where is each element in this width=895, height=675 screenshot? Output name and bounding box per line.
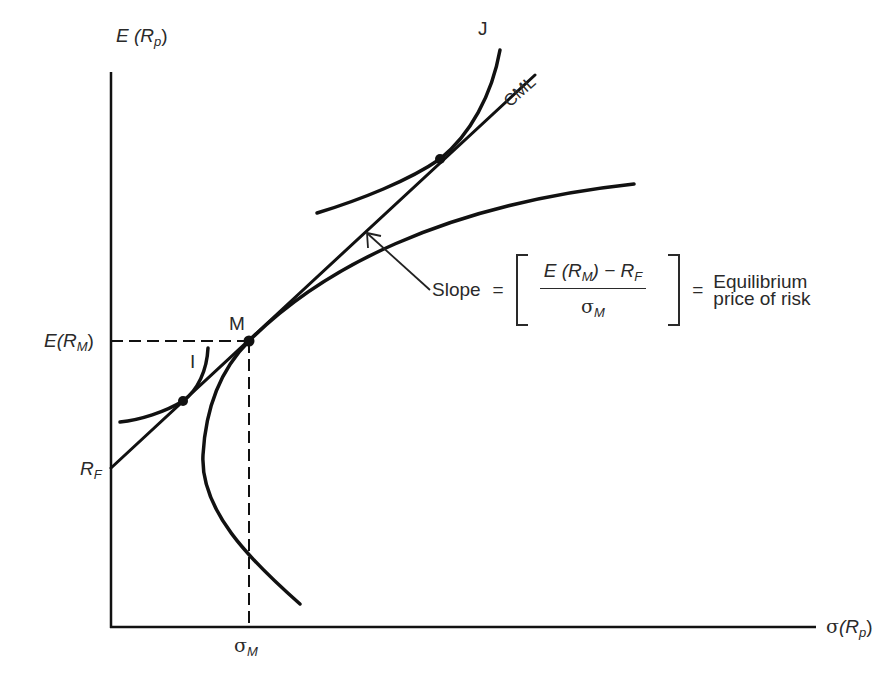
y-axis-label-r: (R [134,25,154,46]
result-line-2: price of risk [713,290,810,307]
slope-fraction: E (RM) − RF σM [540,260,647,320]
slope-formula: Slope = E (RM) − RF σM = Equilibrium pri… [432,254,810,326]
x-axis-label-close: ) [866,616,872,637]
numerator-sub-m: M [582,269,593,284]
numerator-sub-f: F [634,269,642,284]
x-axis-label: σ(Rp) [826,617,873,639]
y-tick-risk-free: RF [80,459,102,481]
y-axis-label: E (Rp) [116,26,168,48]
x-tick-market-risk: σM [234,636,258,658]
y-tick-market-return: E(RM) [44,331,94,353]
efficient-frontier-curve [203,184,634,604]
y-tick-market-sub: M [77,339,88,354]
x-axis-label-r: (R [839,616,859,637]
right-bracket [668,254,680,326]
indifference-curve-i-label: I [190,352,195,371]
denominator-sigma: σ [581,295,594,317]
left-bracket [516,254,528,326]
y-tick-market-main: E(R [44,330,77,351]
result-equals: = [692,279,703,301]
x-tick-sigma: σ [234,634,247,656]
y-tick-riskfree-main: R [80,458,94,479]
x-axis-label-sigma: σ [826,615,839,637]
equilibrium-price-of-risk-label: Equilibrium price of risk [713,273,810,307]
tangent-point-i [178,396,188,406]
numerator-mid: ) − R [593,260,635,281]
slope-equals: = [493,279,504,301]
tangent-point-j [435,154,445,164]
fraction-denominator: σM [581,289,605,320]
indifference-curve-j-label: J [478,19,488,38]
y-axis-label-close: ) [161,25,167,46]
market-portfolio-label: M [229,314,245,333]
x-tick-sub: M [247,644,258,659]
numerator-e: E (R [544,260,582,281]
slope-label: Slope [432,279,481,301]
y-tick-riskfree-sub: F [94,467,102,482]
fraction-numerator: E (RM) − RF [540,260,647,289]
market-portfolio-point [244,336,255,347]
denominator-sub: M [594,305,605,320]
y-axis-label-e: E [116,25,129,46]
cml-diagram-canvas [0,0,895,675]
y-tick-market-close: ) [88,330,94,351]
